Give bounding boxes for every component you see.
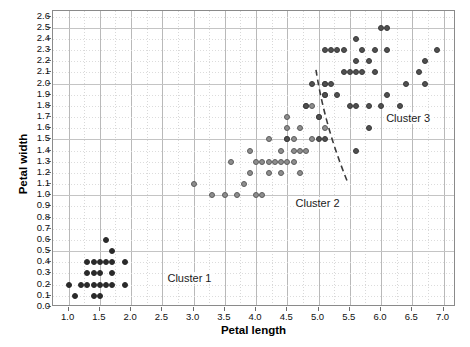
x-axis-tick-label: 6.0 — [373, 311, 386, 322]
x-axis-tick-label: 2.5 — [155, 311, 168, 322]
y-axis-tick-label: 0.1 — [37, 290, 50, 299]
cluster-divider — [316, 70, 347, 181]
y-axis-tick-label: 0.0 — [37, 301, 50, 310]
x-axis-tick-mark — [99, 307, 100, 311]
x-axis-tick-label: 3.0 — [186, 311, 199, 322]
y-axis-tick-label: 0.4 — [37, 256, 50, 265]
y-axis-tick-label: 2.5 — [37, 22, 50, 31]
y-axis-tick-label: 2.1 — [37, 66, 50, 75]
x-axis-tick-label: 7.0 — [436, 311, 449, 322]
cluster-divider-line — [53, 11, 454, 305]
x-axis-tick-mark — [411, 307, 412, 311]
y-axis-tick-label: 2.0 — [37, 78, 50, 87]
cluster-1-label: Cluster 1 — [165, 272, 213, 284]
x-axis-ticklabels: 1.01.52.02.53.03.54.04.55.05.56.06.57.0 — [52, 307, 455, 323]
y-axis-tick-label: 0.6 — [37, 234, 50, 243]
y-axis-tick-label: 0.2 — [37, 279, 50, 288]
x-axis-tick-mark — [130, 307, 131, 311]
y-axis-tick-label: 2.2 — [37, 55, 50, 64]
y-axis-tick-label: 1.7 — [37, 111, 50, 120]
y-axis-tick-label: 0.9 — [37, 200, 50, 209]
y-axis-tick-label: 1.3 — [37, 156, 50, 165]
y-axis-tick-label: 1.6 — [37, 122, 50, 131]
y-axis-tick-label: 1.1 — [37, 178, 50, 187]
cluster-2-label: Cluster 2 — [294, 197, 342, 209]
x-axis-tick-mark — [161, 307, 162, 311]
x-axis-tick-label: 6.5 — [405, 311, 418, 322]
x-axis-tick-label: 1.0 — [61, 311, 74, 322]
annotation-layer: Cluster 1Cluster 2Cluster 3 — [53, 11, 454, 305]
x-axis-tick-mark — [286, 307, 287, 311]
y-axis-tick-label: 2.3 — [37, 44, 50, 53]
x-axis-tick-label: 4.5 — [280, 311, 293, 322]
y-axis-tick-label: 2.4 — [37, 33, 50, 42]
y-axis-tick-label: 0.3 — [37, 267, 50, 276]
x-axis-tick-label: 1.5 — [92, 311, 105, 322]
y-axis-tick-label: 1.5 — [37, 133, 50, 142]
y-axis-tick-label: 2.6 — [37, 11, 50, 20]
x-axis-tick-label: 4.0 — [248, 311, 261, 322]
y-axis-tick-label: 1.4 — [37, 145, 50, 154]
y-axis-title: Petal width — [17, 89, 29, 239]
x-axis-tick-label: 5.0 — [311, 311, 324, 322]
x-axis-tick-mark — [193, 307, 194, 311]
y-axis-tick-label: 1.9 — [37, 89, 50, 98]
x-axis-tick-label: 5.5 — [342, 311, 355, 322]
scatter-plot-figure: Cluster 1Cluster 2Cluster 3 0.00.10.20.3… — [0, 0, 470, 347]
x-axis-tick-mark — [68, 307, 69, 311]
y-axis-tick-label: 1.0 — [37, 189, 50, 198]
x-axis-title: Petal length — [52, 324, 455, 336]
x-axis-tick-mark — [380, 307, 381, 311]
x-axis-tick-mark — [224, 307, 225, 311]
plot-area: Cluster 1Cluster 2Cluster 3 — [52, 10, 455, 306]
cluster-3-label: Cluster 3 — [384, 112, 432, 124]
y-axis-tick-label: 0.5 — [37, 245, 50, 254]
x-axis-tick-mark — [349, 307, 350, 311]
x-axis-tick-label: 2.0 — [123, 311, 136, 322]
y-axis-tick-label: 0.8 — [37, 212, 50, 221]
y-axis-tick-label: 1.2 — [37, 167, 50, 176]
x-axis-tick-mark — [255, 307, 256, 311]
y-axis-tick-label: 0.7 — [37, 223, 50, 232]
x-axis-tick-mark — [318, 307, 319, 311]
x-axis-tick-label: 3.5 — [217, 311, 230, 322]
x-axis-tick-mark — [443, 307, 444, 311]
y-axis-tick-label: 1.8 — [37, 100, 50, 109]
